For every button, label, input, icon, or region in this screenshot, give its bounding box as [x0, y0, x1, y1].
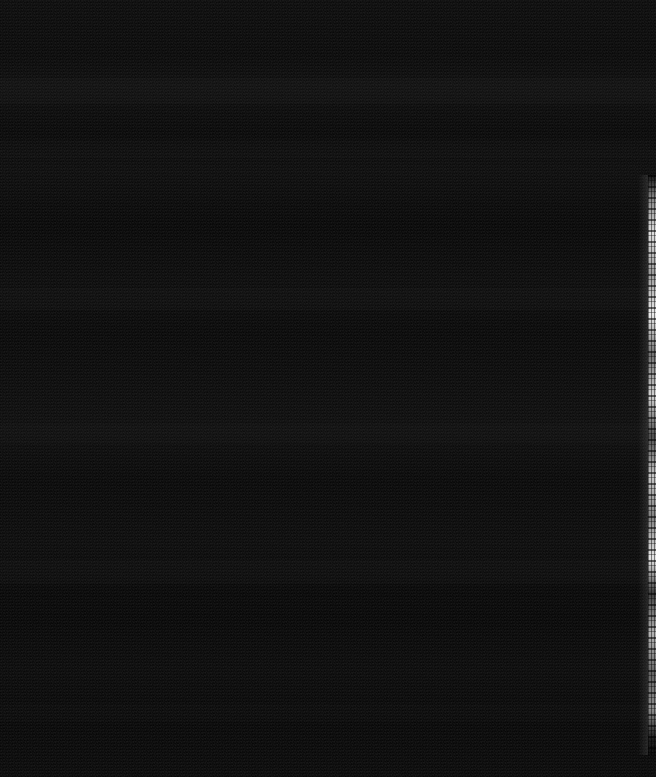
black-screen-surface [0, 0, 656, 777]
right-edge-light-strip[interactable] [648, 175, 656, 755]
screen-capture [0, 0, 656, 777]
light-strip-texture [648, 175, 656, 755]
